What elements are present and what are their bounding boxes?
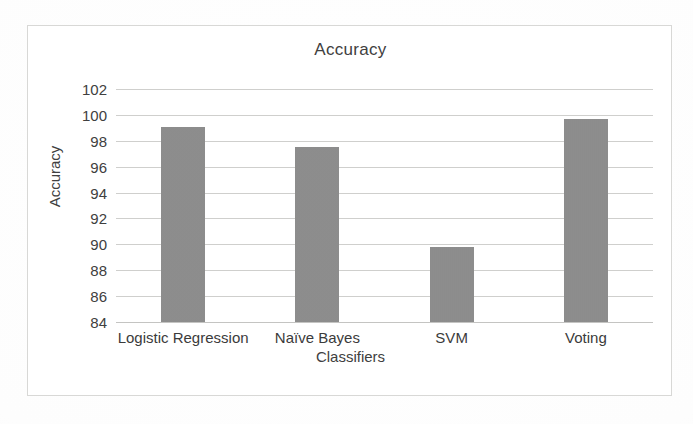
chart-page: Accuracy Accuracy 8486889092949698100102… xyxy=(0,0,693,424)
y-axis-tick-label: 92 xyxy=(90,210,107,227)
x-axis-category-label: Naïve Bayes xyxy=(275,329,360,346)
chart-title-text: Accuracy xyxy=(314,40,386,60)
bar[interactable] xyxy=(161,127,205,322)
x-axis-category-label: Logistic Regression xyxy=(118,329,249,346)
y-axis-title: Accuracy xyxy=(46,117,63,237)
x-axis-category-label: SVM xyxy=(435,329,468,346)
y-axis-tick-label: 88 xyxy=(90,262,107,279)
y-axis-tick-label: 90 xyxy=(90,236,107,253)
y-axis-tick-label: 84 xyxy=(90,314,107,331)
gridline xyxy=(116,115,653,116)
y-axis-tick-label: 96 xyxy=(90,158,107,175)
gridline xyxy=(116,322,653,323)
y-axis-tick-label: 94 xyxy=(90,184,107,201)
y-axis-tick-label: 86 xyxy=(90,288,107,305)
x-axis-title-text: Classifiers xyxy=(316,348,385,365)
plot-area: 8486889092949698100102Logistic Regressio… xyxy=(116,89,653,322)
y-axis-tick-label: 98 xyxy=(90,132,107,149)
x-axis-title: Classifiers xyxy=(0,348,693,365)
y-axis-tick-label: 100 xyxy=(82,106,107,123)
bar[interactable] xyxy=(430,247,474,322)
gridline xyxy=(116,89,653,90)
y-axis-tick-label: 102 xyxy=(82,81,107,98)
bar[interactable] xyxy=(564,119,608,322)
x-axis-category-label: Voting xyxy=(565,329,607,346)
bar[interactable] xyxy=(295,147,339,322)
chart-title: Accuracy xyxy=(0,40,693,60)
